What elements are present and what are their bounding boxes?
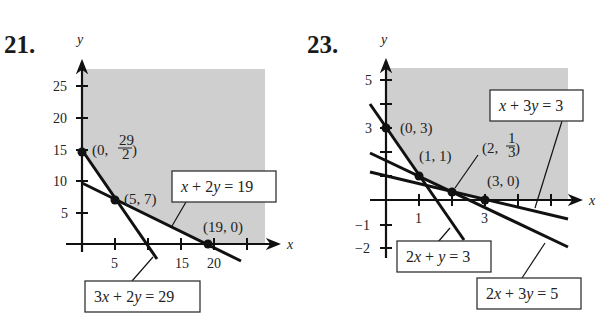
svg-text:(0,: (0, (92, 142, 108, 159)
vertex-label-19-0: (19, 0) (203, 219, 243, 236)
chart-23: 23. y x 5 3 −1 −2 1 3 (307, 31, 596, 309)
y-axis-label: y (75, 32, 84, 47)
vertex-label-5-7: (5, 7) (124, 191, 157, 208)
callout-leader (522, 243, 545, 278)
svg-text:(2,: (2, (482, 140, 498, 157)
x-tick-label: 3 (481, 211, 488, 226)
x-axis-label: x (286, 237, 294, 252)
x-axis-label: x (588, 193, 596, 208)
vertex-point (415, 172, 424, 181)
vertex-point (78, 148, 87, 157)
equation-label-2x-y-3: 2x + y = 3 (406, 248, 470, 266)
vertex-label-1-1: (1, 1) (419, 148, 452, 165)
y-tick-label: 5 (61, 206, 68, 221)
y-tick-label: 10 (53, 174, 67, 189)
svg-text:2: 2 (122, 146, 130, 162)
vertex-point (111, 196, 120, 205)
vertex-label-3-0: (3, 0) (487, 173, 520, 190)
chart-21: 21. y x 25 20 15 10 5 5 15 20 (4, 31, 294, 312)
callout-leader (438, 228, 450, 242)
x-tick-label: 1 (415, 211, 422, 226)
x-tick-label: 15 (175, 256, 189, 271)
vertex-point (448, 188, 457, 197)
figure-canvas: 21. y x 25 20 15 10 5 5 15 20 (0, 0, 602, 323)
vertex-point (481, 196, 490, 205)
x-tick-label: 5 (111, 256, 118, 271)
y-tick-label: −2 (355, 241, 370, 256)
y-tick-label: 5 (365, 73, 372, 88)
svg-text:): ) (132, 142, 137, 159)
vertex-point (204, 240, 213, 249)
problem-number: 23. (307, 31, 338, 58)
equation-label-x-2y-19: x + 2y = 19 (180, 178, 253, 196)
vertex-point (382, 124, 391, 133)
y-tick-label: −1 (355, 218, 370, 233)
y-axis-label: y (379, 32, 388, 47)
y-tick-label: 20 (53, 111, 67, 126)
callout-leader (132, 257, 153, 281)
svg-text:): ) (515, 140, 520, 157)
y-tick-label: 25 (53, 79, 67, 94)
y-tick-label: 15 (53, 143, 67, 158)
y-tick-label: 3 (365, 121, 372, 136)
problem-number: 21. (4, 31, 35, 58)
equation-label-2x-3y-5: 2x + 3y = 5 (486, 285, 558, 303)
x-tick-label: 20 (207, 256, 221, 271)
feasible-region (82, 69, 265, 244)
equation-label-3x-2y-29: 3x + 2y = 29 (94, 288, 174, 306)
vertex-label-0-3: (0, 3) (400, 120, 433, 137)
equation-label-x-3y-3: x + 3y = 3 (498, 97, 563, 115)
